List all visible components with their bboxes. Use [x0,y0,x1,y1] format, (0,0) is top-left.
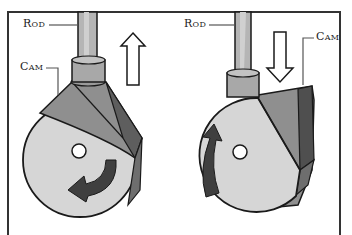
left-cam-label: Cam [20,61,43,72]
right-cam-label: Cam [316,31,339,42]
right-rod-label: Rod [184,18,206,29]
down-arrow-icon [267,32,293,82]
left-panel [23,12,145,217]
cam-diagram [0,0,352,235]
left-rod-label: Rod [23,18,45,29]
up-arrow-icon [121,33,145,85]
right-panel [199,12,314,212]
right-cam-shaft-hole [233,145,247,159]
left-cam-shaft-hole [72,144,86,158]
